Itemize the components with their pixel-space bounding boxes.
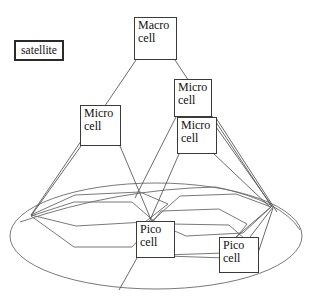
node-label-line: Micro (178, 81, 208, 94)
edge-pico-right-flare-c (258, 208, 273, 253)
node-box-micro-cell-left: Microcell (80, 105, 121, 146)
node-label-line: cell (138, 32, 173, 45)
node-label-line: cell (223, 252, 255, 265)
node-label-line: cell (84, 120, 117, 133)
node-label-line: Micro (84, 107, 117, 120)
node-box-pico-cell-left: Picocell (136, 221, 175, 258)
node-label-line: Pico (140, 223, 171, 236)
node-box-macro-cell: Macrocell (134, 17, 177, 60)
node-box-satellite: satellite (14, 40, 64, 61)
node-label-line: Pico (223, 239, 255, 252)
node-label-line: cell (178, 94, 208, 107)
node-label-line: Micro (181, 119, 213, 132)
node-box-micro-cell-right-upper: Microcell (174, 79, 212, 117)
node-label-line: cell (140, 236, 171, 249)
cellular-hierarchy-diagram: satelliteMacrocellMicrocellMicrocellMicr… (0, 0, 316, 301)
edge-micro-left-to-base-left (31, 146, 81, 216)
node-label-line: cell (181, 132, 213, 145)
edge-micro-right-upper-to-left (135, 117, 176, 198)
edge-pico-left-side-left (119, 258, 137, 290)
node-label-line: Macro (138, 19, 173, 32)
node-label-line: satellite (21, 44, 57, 56)
node-box-micro-cell-right-lower: Microcell (177, 117, 217, 154)
node-box-pico-cell-right: Picocell (219, 237, 259, 273)
